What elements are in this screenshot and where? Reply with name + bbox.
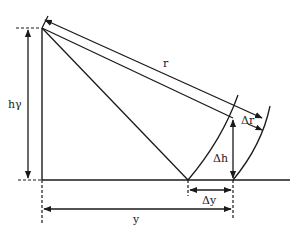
delta-y-label: Δy <box>202 194 217 207</box>
h-gamma-label: hγ <box>8 98 22 111</box>
r-label: r <box>163 57 169 70</box>
y-label: y <box>132 213 140 226</box>
delta-h-label: Δh <box>213 152 228 165</box>
inner-arc <box>188 95 238 180</box>
delta-r-label: Δr <box>241 114 255 127</box>
r-radius-arrow <box>45 20 262 118</box>
slant-line-to-ground <box>42 28 188 180</box>
apex-tick <box>42 16 48 28</box>
inner-radial-line <box>42 28 233 118</box>
geometry-diagram: r Δr hγ Δh Δy y <box>0 0 300 240</box>
